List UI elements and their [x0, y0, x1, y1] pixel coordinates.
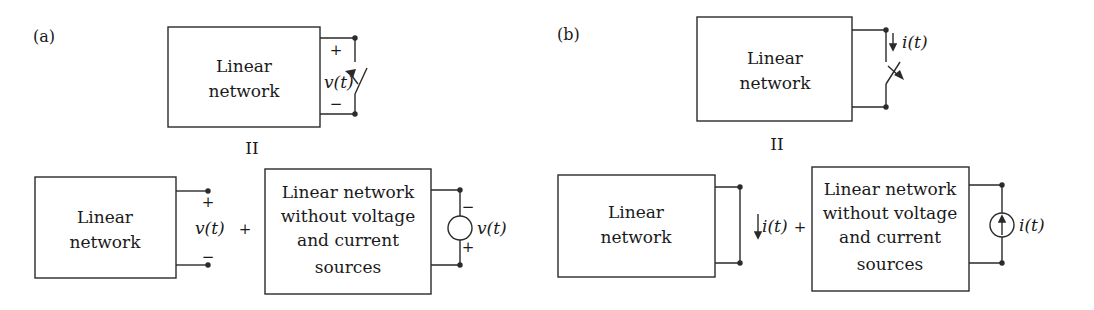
top-terminal-wire — [852, 30, 886, 62]
terminal-node — [884, 28, 888, 32]
minus-sign: − — [330, 95, 343, 113]
linear-network-box — [697, 17, 852, 121]
passive-network-line1: Linear network — [282, 182, 415, 202]
terminal-node — [353, 112, 357, 116]
superposition-diagram: (a) (b) Linear network + − v(t) II Linea… — [0, 0, 1094, 310]
terminal-node — [458, 188, 462, 192]
terminal-node — [738, 185, 742, 189]
superposition-plus-operator: + — [794, 218, 807, 236]
terminal-node — [1000, 261, 1004, 265]
network-label-line2: network — [208, 81, 280, 101]
terminal-node — [458, 263, 462, 267]
panel-b-bottom-left-circuit — [558, 175, 758, 277]
passive-network-line2: without voltage — [823, 203, 957, 223]
source-plus-sign: + — [462, 238, 475, 256]
current-label: i(t) — [1019, 215, 1045, 235]
voltage-label: v(t) — [477, 218, 507, 238]
plus-sign: + — [202, 193, 215, 211]
source-minus-sign: − — [462, 198, 475, 216]
network-label-line2: network — [69, 232, 141, 252]
passive-network-line3: and current — [297, 230, 399, 250]
passive-network-line4: sources — [315, 257, 381, 277]
passive-network-line4: sources — [857, 254, 923, 274]
linear-network-box — [558, 175, 715, 277]
current-label: i(t) — [902, 32, 928, 52]
plus-sign: + — [330, 41, 343, 59]
passive-network-line1: Linear network — [824, 179, 957, 199]
caption-II: II — [770, 134, 783, 154]
network-label-line1: Linear — [747, 48, 804, 68]
linear-network-box — [168, 27, 320, 127]
network-label-line2: network — [739, 73, 811, 93]
top-terminal-wire — [969, 185, 1002, 213]
terminal-node — [1000, 183, 1004, 187]
voltage-source-icon — [448, 216, 472, 240]
superposition-plus-operator: + — [239, 220, 252, 238]
minus-sign: − — [202, 248, 215, 266]
network-label-line1: Linear — [77, 207, 134, 227]
panel-a-label: (a) — [33, 27, 55, 46]
short-circuit-wire — [715, 187, 740, 263]
linear-network-box — [35, 177, 176, 278]
voltage-label: v(t) — [195, 218, 225, 238]
top-terminal-wire — [431, 190, 460, 216]
terminal-node — [353, 36, 357, 40]
network-label-line1: Linear — [216, 56, 273, 76]
passive-network-line3: and current — [839, 227, 941, 247]
current-label: i(t) — [762, 216, 788, 236]
terminal-node — [738, 261, 742, 265]
passive-network-line2: without voltage — [281, 206, 415, 226]
switch-blade — [355, 68, 367, 94]
network-label-line2: network — [600, 227, 672, 247]
bottom-terminal-wire — [969, 237, 1002, 263]
panel-a-bottom-left-circuit — [35, 177, 210, 278]
terminal-node — [884, 105, 888, 109]
panel-b-top-circuit — [697, 17, 904, 121]
bottom-terminal-wire — [852, 84, 886, 107]
panel-b-label: (b) — [557, 25, 580, 44]
bottom-terminal-wire — [431, 240, 460, 265]
caption-II: II — [245, 138, 258, 158]
voltage-label: v(t) — [324, 72, 354, 92]
switch-arrow-icon — [894, 70, 904, 80]
network-label-line1: Linear — [608, 202, 665, 222]
